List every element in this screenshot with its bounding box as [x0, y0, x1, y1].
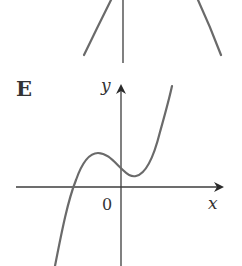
parabola-left-branch: [84, 0, 111, 55]
y-axis-label: y: [100, 75, 111, 95]
parabola-right-branch: [198, 0, 221, 55]
origin-label: 0: [102, 195, 112, 214]
previous-panel-fragment: [84, 0, 221, 63]
x-axis-label: x: [208, 193, 218, 213]
panel-e: E y x 0: [16, 75, 222, 266]
figure-canvas: E y x 0: [0, 0, 242, 266]
cubic-curve: [55, 86, 172, 266]
panel-label: E: [16, 76, 32, 101]
